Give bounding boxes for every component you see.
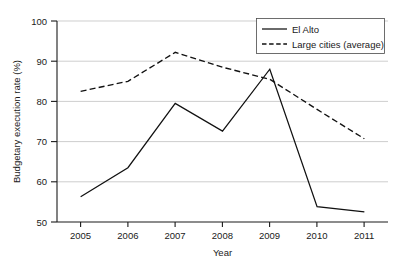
y-tick-label-70: 70 [36,136,47,147]
legend: El Alto Large cities (average) [257,19,385,54]
legend-label-el-alto: El Alto [292,24,319,35]
x-tick-label-2007: 2007 [165,230,186,241]
y-tick-label-90: 90 [36,56,47,67]
y-tick-labels: 100 90 80 70 60 50 [31,16,47,228]
y-tick-label-60: 60 [36,176,47,187]
x-tick-label-2011: 2011 [354,230,374,241]
x-tick-label-2006: 2006 [117,230,138,241]
y-tick-label-80: 80 [36,96,47,107]
y-tick-marks [51,21,57,222]
x-tick-label-2005: 2005 [70,230,91,241]
x-tick-label-2009: 2009 [259,230,280,241]
series-line-large-cities-average [81,52,365,138]
x-tick-label-2010: 2010 [306,230,327,241]
legend-label-large-cities-average: Large cities (average) [292,39,384,50]
series-line-el-alto [81,69,365,212]
line-chart: 100 90 80 70 60 50 2005 2006 2007 2008 2… [0,0,400,268]
x-axis-title: Year [213,247,232,258]
chart-figure: 100 90 80 70 60 50 2005 2006 2007 2008 2… [0,0,400,268]
y-tick-label-50: 50 [36,217,47,228]
x-tick-label-2008: 2008 [212,230,233,241]
x-tick-labels: 2005 2006 2007 2008 2009 2010 2011 [70,230,374,241]
y-tick-label-100: 100 [31,16,47,27]
x-tick-marks [81,222,365,227]
y-axis-title: Budgetary execution rate (%) [11,60,22,183]
